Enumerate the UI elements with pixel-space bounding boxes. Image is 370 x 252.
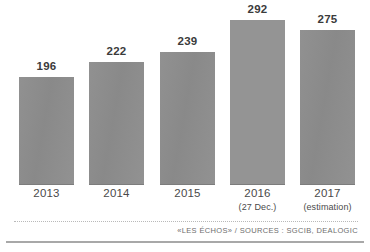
bar-rect — [160, 52, 215, 185]
bar-rect — [230, 20, 285, 185]
bar-chart-figure: 196 222 239 292 275 2013 2014 — [0, 0, 370, 252]
axis-tick-sublabel: (27 Dec.) — [230, 201, 285, 213]
axis-tick-label: 2015 — [160, 186, 215, 201]
bar-value-label: 292 — [230, 3, 285, 16]
bar-rect — [19, 77, 74, 185]
axis-tick-2017: 2017 (estimation) — [300, 186, 355, 213]
chart-plot-area: 196 222 239 292 275 — [0, 0, 370, 186]
dotted-divider — [14, 221, 358, 222]
source-credit: «LES ÉCHOS» / SOURCES : SGCIB, DEALOGIC — [177, 226, 358, 235]
axis-tick-label: 2013 — [19, 186, 74, 201]
category-axis: 2013 2014 2015 2016 (27 Dec.) 2017 (esti… — [0, 186, 370, 218]
bar-rect — [300, 30, 355, 185]
bar-rect — [89, 62, 144, 185]
bar-value-label: 196 — [19, 60, 74, 73]
axis-tick-label: 2016 — [230, 186, 285, 201]
axis-tick-2016: 2016 (27 Dec.) — [230, 186, 285, 213]
axis-tick-2015: 2015 — [160, 186, 215, 201]
axis-tick-sublabel: (estimation) — [300, 201, 355, 213]
bar-value-label: 275 — [300, 13, 355, 26]
axis-tick-label: 2014 — [89, 186, 144, 201]
bar-value-label: 239 — [160, 35, 215, 48]
axis-tick-2013: 2013 — [19, 186, 74, 201]
axis-tick-2014: 2014 — [89, 186, 144, 201]
axis-tick-label: 2017 — [300, 186, 355, 201]
bottom-divider — [6, 241, 364, 243]
bar-value-label: 222 — [89, 45, 144, 58]
